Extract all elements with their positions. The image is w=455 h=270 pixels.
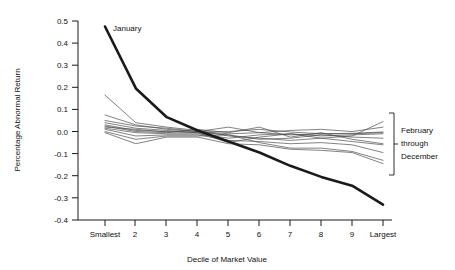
y-tick-label: 0.5 (57, 17, 69, 26)
x-tick-label: 2 (133, 230, 138, 239)
y-tick-label: 0.4 (57, 39, 69, 48)
x-axis-title: Decile of Market Value (187, 255, 267, 264)
other-months-label-line3: December (401, 152, 438, 161)
x-tick-label: Smallest (90, 230, 121, 239)
y-tick-label: 0.2 (57, 83, 69, 92)
x-tick-label: Largest (370, 230, 397, 239)
chart-figure: 0.5 0.4 0.3 0.2 0.1 0.0 -0.1 -0.2 -0.3 -… (0, 0, 455, 270)
y-tick-label: -0.1 (54, 150, 68, 159)
x-tick-label: 5 (226, 230, 231, 239)
x-tick-label: 3 (164, 230, 169, 239)
abnormal-return-line-chart: 0.5 0.4 0.3 0.2 0.1 0.0 -0.1 -0.2 -0.3 -… (0, 0, 455, 270)
y-axis-title: Percentage Abnormal Return (13, 68, 22, 171)
y-tick-label: 0.0 (57, 128, 69, 137)
x-tick-label: 7 (288, 230, 293, 239)
x-tick-label: 4 (195, 230, 200, 239)
x-tick-label: 8 (319, 230, 324, 239)
other-months-label-line1: February (401, 126, 433, 135)
y-tick-label: 0.1 (57, 105, 69, 114)
x-tick-label: 9 (350, 230, 355, 239)
y-tick-label: -0.3 (54, 194, 68, 203)
y-tick-label: -0.4 (54, 216, 68, 225)
january-label: January (113, 24, 141, 33)
y-tick-label: -0.2 (54, 172, 68, 181)
x-tick-label: 6 (257, 230, 262, 239)
other-months-label-line2: through (401, 139, 428, 148)
y-tick-label: 0.3 (57, 61, 69, 70)
